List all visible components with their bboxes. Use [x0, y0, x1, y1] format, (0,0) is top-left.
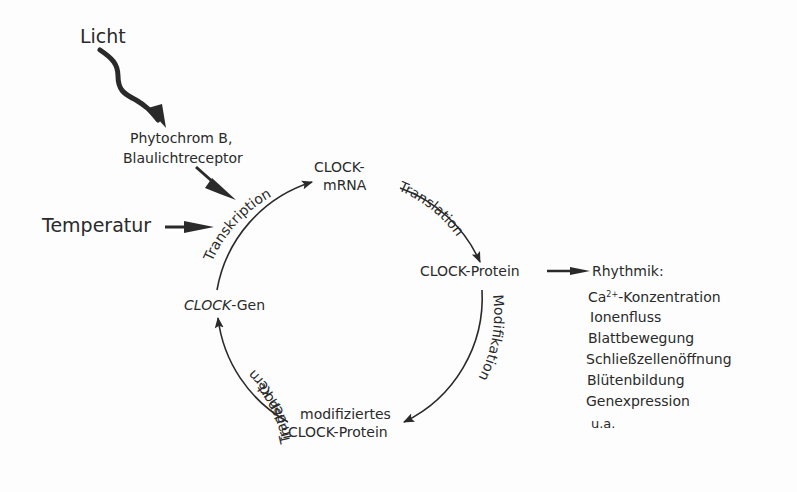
- modified-protein-line1: modifiziertes: [300, 406, 391, 422]
- output-item: Ionenfluss: [590, 309, 661, 325]
- gene-name-italic: CLOCK: [184, 297, 233, 313]
- gene-node: CLOCK-Gen: [184, 297, 265, 313]
- photoreceptor-arrow: [196, 167, 236, 200]
- photoreceptor-label-1: Phytochrom B,: [130, 130, 232, 146]
- output-item: Genexpression: [586, 393, 690, 409]
- modification-arc: [404, 290, 482, 422]
- output-item: Blattbewegung: [588, 330, 694, 346]
- output-item: Blütenbildung: [587, 372, 685, 388]
- temperature-arrow: [165, 221, 214, 233]
- output-item: Schließzellenöffnung: [586, 351, 732, 367]
- light-label: Licht: [80, 25, 126, 47]
- photoreceptor-label-2: Blaulichtreceptor: [123, 150, 243, 166]
- gene-suffix: -Gen: [231, 297, 265, 313]
- protein-node: CLOCK-Protein: [420, 263, 520, 279]
- output-arrow: [547, 267, 590, 275]
- transport-label-2: in den Kern: [245, 367, 295, 441]
- transcription-label: Transkription: [200, 185, 274, 264]
- output-item-calcium: Ca2+-Konzentration: [588, 289, 721, 305]
- translation-label: Translation: [396, 178, 468, 239]
- modified-protein-line2: CLOCK-Protein: [288, 424, 388, 440]
- mrna-node-line1: CLOCK-: [314, 159, 365, 175]
- rhythm-title: Rhythmik:: [592, 263, 664, 279]
- mrna-node-line2: mRNA: [323, 177, 367, 193]
- modification-label: Modifikation: [476, 294, 508, 384]
- clock-cycle-diagram: Licht Phytochrom B, Blaulichtreceptor Te…: [0, 0, 797, 492]
- temperature-label: Temperatur: [41, 214, 151, 236]
- light-arrow: [100, 50, 166, 128]
- output-item: u.a.: [591, 416, 615, 431]
